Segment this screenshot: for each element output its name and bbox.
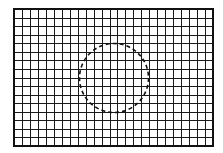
grid-diagram xyxy=(0,0,223,153)
diagram-canvas xyxy=(0,0,223,153)
